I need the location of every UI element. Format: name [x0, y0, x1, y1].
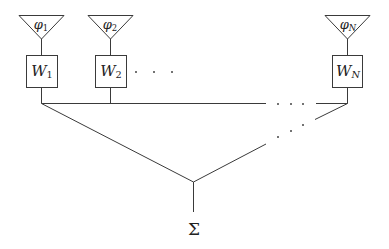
ellipsis-dot — [135, 71, 137, 73]
antenna-2-label: φ2 — [103, 18, 117, 33]
right-diagonal-line-lower — [194, 144, 267, 182]
diagonal-ellipsis-dot — [302, 124, 304, 126]
summation-symbol: Σ — [188, 221, 200, 238]
ellipsis-dot — [153, 71, 155, 73]
right-diagonal-line-upper — [315, 104, 348, 120]
bus-ellipsis-dot — [277, 103, 279, 105]
weight-2-label: W2 — [100, 64, 122, 80]
bus-ellipsis-dot — [302, 103, 304, 105]
weight-1-label: W1 — [31, 64, 53, 80]
diagonal-ellipsis-dot — [290, 130, 292, 132]
diagonal-ellipsis-dot — [277, 136, 279, 138]
antenna-n-label: φN — [340, 18, 357, 33]
antenna-1-label: φ1 — [34, 18, 48, 33]
beamformer-diagram — [0, 0, 389, 249]
weight-n-label: WN — [336, 64, 360, 80]
bus-ellipsis-dot — [290, 103, 292, 105]
left-diagonal-line — [42, 104, 194, 183]
ellipsis-dot — [171, 71, 173, 73]
